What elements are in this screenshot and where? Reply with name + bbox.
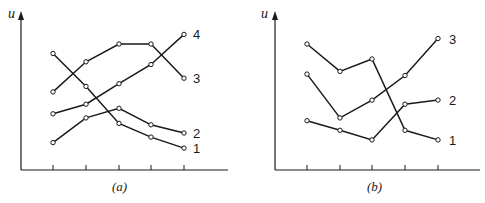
- panel-b: u 123 (b): [261, 6, 480, 194]
- data-point: [338, 128, 342, 132]
- data-point: [338, 69, 342, 73]
- data-point: [84, 60, 88, 64]
- data-point: [436, 98, 440, 102]
- data-point: [182, 131, 186, 135]
- panel-caption: (a): [112, 179, 127, 194]
- data-point: [149, 62, 153, 66]
- data-point: [436, 138, 440, 142]
- data-point: [182, 32, 186, 36]
- data-point: [117, 106, 121, 110]
- series-label: 1: [449, 133, 456, 148]
- data-point: [51, 140, 55, 144]
- figure: u 1234 (a) u 123 (b): [0, 0, 485, 203]
- data-point: [403, 73, 407, 77]
- y-axis-arrow-icon: [272, 11, 278, 20]
- y-axis-arrow-icon: [18, 11, 24, 20]
- data-point: [149, 42, 153, 46]
- data-point: [84, 116, 88, 120]
- data-point: [149, 123, 153, 127]
- data-point: [370, 98, 374, 102]
- data-point: [305, 72, 309, 76]
- y-axis-label: u: [261, 6, 268, 21]
- data-point: [403, 128, 407, 132]
- data-point: [84, 84, 88, 88]
- series-label: 2: [193, 126, 200, 141]
- y-axis-label: u: [8, 6, 15, 21]
- series-label: 1: [193, 141, 200, 156]
- data-point: [305, 42, 309, 46]
- data-point: [117, 121, 121, 125]
- series-line-3: [307, 39, 438, 118]
- data-point: [305, 119, 309, 123]
- series-label: 3: [449, 32, 456, 47]
- data-point: [338, 116, 342, 120]
- data-point: [182, 76, 186, 80]
- panel-caption: (b): [367, 179, 382, 194]
- data-point: [84, 102, 88, 106]
- data-point: [51, 112, 55, 116]
- data-point: [51, 90, 55, 94]
- series-line-1: [53, 54, 184, 149]
- series-label: 3: [193, 71, 200, 86]
- data-point: [51, 51, 55, 55]
- panel-a: u 1234 (a): [8, 6, 228, 194]
- data-point: [370, 138, 374, 142]
- series-label: 2: [449, 93, 456, 108]
- data-point: [117, 42, 121, 46]
- series-label: 4: [193, 27, 200, 42]
- data-point: [149, 135, 153, 139]
- data-point: [117, 82, 121, 86]
- data-point: [436, 36, 440, 40]
- data-point: [370, 57, 374, 61]
- data-point: [182, 146, 186, 150]
- data-point: [403, 102, 407, 106]
